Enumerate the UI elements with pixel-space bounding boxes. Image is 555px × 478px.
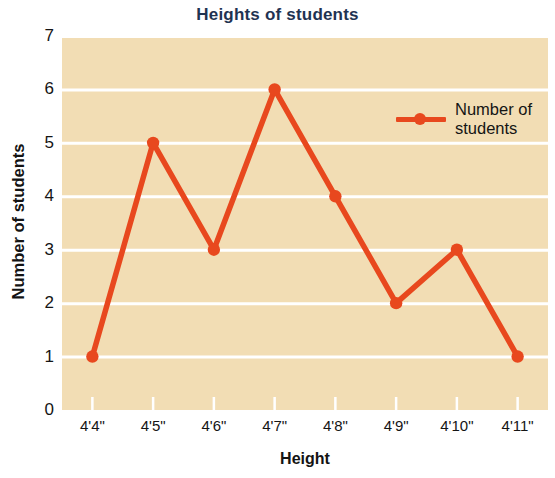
chart-title: Heights of students [0,5,555,25]
line-chart: Heights of students Number of students 0… [0,0,555,478]
x-axis-tick-label: 4'11" [483,417,553,434]
x-axis-tick-label: 4'5" [118,417,188,434]
x-axis-tick-label: 4'10" [422,417,492,434]
plot-area [62,36,548,410]
x-axis-tick-label: 4'9" [361,417,431,434]
gridlines [62,37,548,358]
legend-dot-icon [414,113,426,125]
data-point [511,350,523,362]
legend-label: Number of students [455,100,532,139]
x-axis-tick-label: 4'8" [300,417,370,434]
y-axis-tick-label: 6 [14,80,54,97]
data-point [390,297,402,309]
x-axis-tick-labels: 4'4"4'5"4'6"4'7"4'8"4'9"4'10"4'11" [62,417,548,443]
y-axis-tick-labels: 01234567 [8,0,54,478]
y-axis-tick-label: 7 [14,27,54,44]
y-axis-tick-label: 1 [14,348,54,365]
y-axis-tick-label: 2 [14,294,54,311]
data-point [329,190,341,202]
y-axis-tick-label: 4 [14,187,54,204]
y-axis-tick-label: 0 [14,401,54,418]
data-point [86,350,98,362]
y-axis-tick-label: 3 [14,241,54,258]
y-axis-tick-label: 5 [14,134,54,151]
data-point [147,137,159,149]
legend-label-line-1: Number of [455,100,532,119]
x-axis-ticks [92,397,517,410]
data-point [268,83,280,95]
legend-marker-icon [396,111,446,127]
x-axis-tick-label: 4'7" [240,417,310,434]
data-point [451,244,463,256]
chart-legend: Number of students [396,100,532,139]
x-axis-tick-label: 4'4" [57,417,127,434]
x-axis-tick-label: 4'6" [179,417,249,434]
legend-label-line-2: students [455,119,532,138]
x-axis-title: Height [62,450,548,468]
plot-svg [62,36,548,410]
data-point [208,244,220,256]
